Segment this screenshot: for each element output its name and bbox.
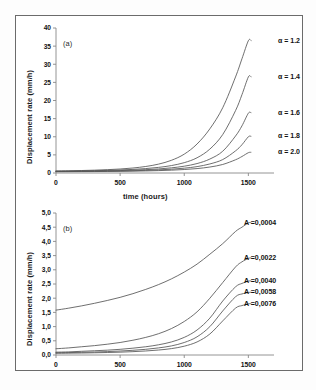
panel-b-label: (b): [63, 224, 72, 233]
y-tick-label: 1,0: [42, 323, 51, 331]
series-label-A-0.0058: A =0,0058: [244, 288, 276, 295]
figure-border: 0510152025303540050010001500 Displacemen…: [15, 15, 303, 371]
y-tick-label: 0,0: [42, 351, 51, 359]
curve-A-0.0022: [56, 258, 251, 349]
x-tick-label: 1500: [241, 361, 256, 368]
series-label-A-0.0040: A =0,0040: [244, 277, 276, 284]
series-label-A-0.0076: A =0,0076: [244, 300, 276, 307]
y-tick-label: 4,0: [42, 238, 51, 246]
figure-container: 0510152025303540050010001500 Displacemen…: [0, 0, 316, 390]
x-tick-label: 500: [114, 361, 126, 368]
y-tick-label: 4,5: [42, 224, 51, 232]
y-tick-label: 2,0: [42, 295, 51, 303]
x-tick-label: 0: [54, 361, 58, 368]
y-tick-label: 5,0: [42, 209, 51, 217]
panel-b-plot: 0,00,51,01,52,02,53,03,54,04,55,00500100…: [16, 16, 304, 372]
curve-A-0.0040: [56, 281, 251, 352]
panel-b: 0,00,51,01,52,02,53,03,54,04,55,00500100…: [16, 16, 302, 370]
y-tick-label: 2,5: [42, 280, 51, 288]
panel-b-y-axis-title: Displacement rate (mm/h): [25, 252, 34, 346]
y-tick-label: 3,5: [42, 252, 51, 260]
curve-A-0.0004: [56, 223, 251, 311]
y-tick-label: 1,5: [42, 309, 51, 317]
series-label-A-0.0004: A =0,0004: [244, 219, 276, 226]
x-tick-label: 1000: [177, 361, 192, 368]
y-tick-label: 0,5: [42, 337, 51, 345]
y-tick-label: 3,0: [42, 266, 51, 274]
series-label-A-0.0022: A =0,0022: [244, 254, 276, 261]
